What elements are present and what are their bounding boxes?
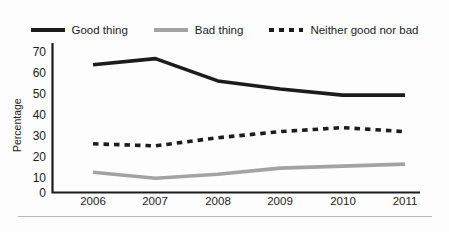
y-tick-label: 10 <box>33 171 47 185</box>
y-tick-label: 70 <box>33 45 47 59</box>
legend-label-good-thing: Good thing <box>72 24 128 36</box>
legend-swatch-neither-icon <box>269 28 303 32</box>
y-tick-label: 20 <box>33 150 47 164</box>
series-line-neither-good-nor-bad <box>93 128 405 146</box>
x-tick-label: 2007 <box>142 195 168 205</box>
legend-item-neither-good-nor-bad[interactable]: Neither good nor bad <box>269 24 418 36</box>
chart-legend: Good thing Bad thing Neither good nor ba… <box>0 18 449 42</box>
x-axis-tick-labels: 2006 2007 2008 2009 2010 2011 <box>80 195 417 205</box>
footer-divider <box>18 216 432 217</box>
y-tick-label: 40 <box>33 108 47 122</box>
series-line-good-thing <box>93 59 405 96</box>
legend-item-bad-thing[interactable]: Bad thing <box>154 24 244 36</box>
legend-label-bad-thing: Bad thing <box>195 24 244 36</box>
x-tick-label: 2011 <box>393 195 418 205</box>
chart-plot-area: Percentage 70 60 50 40 30 20 10 0 <box>0 40 449 205</box>
chart-svg: Percentage 70 60 50 40 30 20 10 0 <box>0 40 449 205</box>
x-tick-label: 2006 <box>80 195 106 205</box>
axis-spines <box>53 43 421 193</box>
y-tick-label: 50 <box>33 87 47 101</box>
y-axis-title: Percentage <box>11 98 23 152</box>
chart-figure: Good thing Bad thing Neither good nor ba… <box>0 0 449 232</box>
y-tick-label: 60 <box>33 66 47 80</box>
series-line-bad-thing <box>93 164 405 178</box>
x-tick-label: 2008 <box>205 195 231 205</box>
legend-swatch-bad-thing-icon <box>154 28 188 32</box>
series-group <box>93 59 405 179</box>
legend-label-neither-good-nor-bad: Neither good nor bad <box>310 24 418 36</box>
legend-item-good-thing[interactable]: Good thing <box>31 24 128 36</box>
x-tick-label: 2009 <box>267 195 293 205</box>
x-tick-label: 2010 <box>330 195 356 205</box>
legend-swatch-good-thing-icon <box>31 28 65 32</box>
y-tick-label: 30 <box>33 129 47 143</box>
y-axis-tick-labels: 70 60 50 40 30 20 10 0 <box>33 45 47 200</box>
y-tick-label: 0 <box>39 186 46 200</box>
